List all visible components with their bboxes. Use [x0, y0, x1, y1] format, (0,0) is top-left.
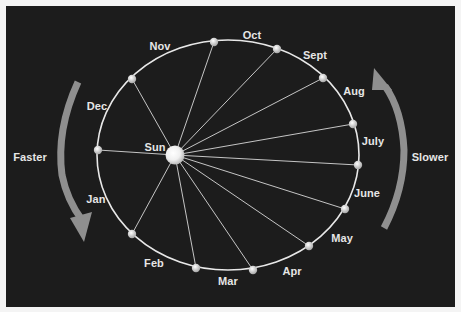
spoke-line: [175, 155, 309, 246]
planet-marker-mar: [192, 264, 200, 272]
slower-label: Slower: [412, 151, 449, 163]
month-label-feb: Feb: [144, 257, 164, 269]
spoke-line: [175, 155, 253, 270]
planet-marker-apr: [249, 266, 257, 274]
planet-marker-july: [354, 161, 362, 169]
planet-marker-oct: [273, 45, 281, 53]
spoke-line: [132, 155, 175, 234]
month-label-apr: Apr: [282, 265, 301, 277]
planet-marker-may: [305, 242, 313, 250]
spoke-line: [175, 124, 353, 155]
orbit-diagram: [0, 0, 461, 312]
month-label-dec: Dec: [87, 100, 107, 112]
month-label-june: June: [354, 187, 380, 199]
planet-marker-nov: [210, 38, 218, 46]
spoke-line: [175, 155, 196, 268]
orbit-path: [97, 40, 359, 270]
sun-to-planet-lines: [98, 42, 358, 270]
planet-marker-feb: [128, 230, 136, 238]
spoke-line: [175, 49, 277, 155]
month-label-sept: Sept: [303, 49, 327, 61]
planet-marker-jan: [94, 146, 102, 154]
month-label-oct: Oct: [243, 29, 262, 41]
month-label-jan: Jan: [86, 193, 105, 205]
planet-marker-dec: [128, 75, 136, 83]
planet-markers: [94, 38, 362, 274]
sun-label: Sun: [144, 141, 165, 153]
planet-marker-june: [341, 205, 349, 213]
faster-label: Faster: [13, 151, 47, 163]
sun-icon: [166, 146, 185, 165]
month-label-aug: Aug: [343, 85, 365, 97]
month-label-mar: Mar: [218, 275, 238, 287]
planet-marker-sept: [319, 74, 327, 82]
month-label-nov: Nov: [149, 40, 170, 52]
month-label-july: July: [362, 135, 384, 147]
planet-marker-aug: [349, 120, 357, 128]
month-label-may: May: [331, 232, 353, 244]
slower-arrow-icon: [372, 68, 404, 228]
